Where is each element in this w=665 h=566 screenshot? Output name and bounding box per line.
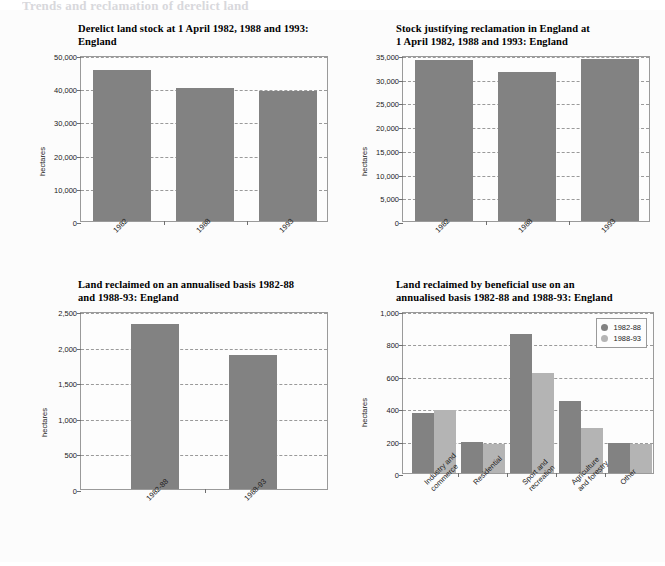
- y-tick-label: 0: [395, 471, 399, 480]
- y-tick-mark: [399, 152, 403, 153]
- y-tick-label: 35,000: [376, 53, 399, 62]
- y-tick-label: 0: [73, 219, 77, 228]
- y-tick-label: 15,000: [376, 147, 399, 156]
- y-tick-mark: [399, 378, 403, 379]
- chart-title-line2: annualised basis 1982-88 and 1988-93: En…: [396, 291, 665, 304]
- chart-title-line2: 1 April 1982, 1988 and 1993: England: [396, 35, 656, 48]
- chart-title: Stock justifying reclamation in England …: [396, 22, 656, 48]
- bar: [93, 70, 151, 221]
- y-tick-mark: [77, 313, 81, 314]
- x-tick-mark: [205, 489, 206, 493]
- chart-area: hectares 35,000 30,000 25,000 20,000 15,…: [352, 52, 662, 272]
- chart-area: hectares 2,500 2,000 1,500 1,000 500 0 1: [24, 308, 334, 538]
- gridline: [81, 349, 327, 350]
- y-tick-mark: [399, 176, 403, 177]
- y-tick-label: 0: [395, 219, 399, 228]
- y-tick-mark: [399, 81, 403, 82]
- y-tick-mark: [399, 475, 403, 476]
- x-tick-mark: [569, 221, 570, 225]
- y-tick-label: 25,000: [376, 100, 399, 109]
- chart-panel-land-reclaimed-beneficial-use: Land reclaimed by beneficial use on an a…: [352, 278, 662, 548]
- y-tick-label: 0: [73, 487, 77, 496]
- y-tick-mark: [77, 57, 81, 58]
- y-tick-label: 200: [386, 438, 399, 447]
- bar: [581, 59, 639, 221]
- y-axis-label: hectares: [360, 389, 369, 437]
- y-tick-mark: [77, 349, 81, 350]
- bar: [498, 72, 556, 221]
- bar: [229, 355, 277, 489]
- y-tick-mark: [77, 491, 81, 492]
- y-tick-label: 5,000: [380, 195, 399, 204]
- plot-area: 50,000 40,000 30,000 20,000 10,000 0 198…: [80, 56, 328, 222]
- legend-swatch-icon: [601, 335, 608, 342]
- y-tick-mark: [399, 104, 403, 105]
- y-tick-label: 1,000: [380, 309, 399, 318]
- y-tick-label: 40,000: [54, 86, 77, 95]
- y-tick-mark: [77, 384, 81, 385]
- x-tick-mark: [486, 221, 487, 225]
- y-tick-mark: [77, 123, 81, 124]
- legend-item: 1988-93: [601, 333, 641, 344]
- chart-title: Land reclaimed by beneficial use on an a…: [396, 278, 665, 304]
- y-tick-mark: [399, 443, 403, 444]
- chart-title-line1: Stock justifying reclamation in England …: [396, 22, 656, 35]
- chart-panel-stock-justifying-reclamation: Stock justifying reclamation in England …: [352, 22, 662, 272]
- y-tick-label: 20,000: [376, 124, 399, 133]
- gridline: [81, 455, 327, 456]
- y-tick-mark: [399, 345, 403, 346]
- legend-label: 1988-93: [613, 334, 641, 343]
- y-axis-label: hectares: [38, 138, 47, 186]
- y-tick-mark: [77, 90, 81, 91]
- plot-area: 2,500 2,000 1,500 1,000 500 0 1982-88 19…: [80, 312, 328, 490]
- y-tick-mark: [77, 190, 81, 191]
- gridline: [81, 384, 327, 385]
- chart-title: Land reclaimed on an annualised basis 19…: [78, 278, 338, 304]
- gridline: [81, 57, 327, 58]
- x-tick-mark: [164, 221, 165, 225]
- gridline: [403, 313, 653, 314]
- chart-legend: 1982-88 1988-93: [596, 318, 647, 348]
- y-tick-label: 10,000: [376, 171, 399, 180]
- x-tick-mark: [247, 221, 248, 225]
- bar-1982-88: [412, 413, 434, 473]
- gridline: [81, 313, 327, 314]
- y-tick-mark: [399, 128, 403, 129]
- y-tick-mark: [77, 455, 81, 456]
- y-tick-label: 600: [386, 373, 399, 382]
- chart-title-line2: and 1988-93: England: [78, 291, 338, 304]
- x-tick-mark: [556, 473, 557, 477]
- y-tick-label: 1,000: [58, 415, 77, 424]
- y-tick-mark: [399, 199, 403, 200]
- y-tick-label: 400: [386, 406, 399, 415]
- y-tick-label: 20,000: [54, 152, 77, 161]
- y-tick-label: 30,000: [54, 119, 77, 128]
- plot-area: 1,000 800 600 400 200 0: [402, 312, 654, 474]
- legend-item: 1982-88: [601, 322, 641, 333]
- x-tick-mark: [605, 473, 606, 477]
- bar: [259, 91, 317, 221]
- chart-panel-derelict-land-stock: Derelict land stock at 1 April 1982, 198…: [24, 22, 334, 272]
- bar-1982-88: [510, 334, 532, 473]
- y-tick-mark: [399, 410, 403, 411]
- chart-panel-land-reclaimed-annualised: Land reclaimed on an annualised basis 19…: [24, 278, 334, 548]
- chart-title-line2: England: [78, 35, 328, 48]
- bar-1982-88: [608, 443, 630, 473]
- y-tick-label: 10,000: [54, 185, 77, 194]
- y-tick-label: 1,500: [58, 380, 77, 389]
- y-tick-label: 30,000: [376, 76, 399, 85]
- bar-1982-88: [461, 442, 483, 473]
- x-tick-mark: [507, 473, 508, 477]
- x-tick-mark: [458, 473, 459, 477]
- plot-area: 35,000 30,000 25,000 20,000 15,000 10,00…: [402, 56, 650, 222]
- bar: [131, 324, 179, 489]
- y-tick-label: 500: [64, 451, 77, 460]
- chart-area: hectares 50,000 40,000 30,000 20,000 10,…: [24, 52, 334, 272]
- y-tick-mark: [77, 420, 81, 421]
- chart-title-line1: Derelict land stock at 1 April 1982, 198…: [78, 22, 328, 35]
- y-tick-mark: [77, 157, 81, 158]
- y-axis-label: hectares: [360, 138, 369, 186]
- y-tick-mark: [399, 313, 403, 314]
- y-axis-label: hectares: [40, 399, 49, 447]
- gridline: [81, 420, 327, 421]
